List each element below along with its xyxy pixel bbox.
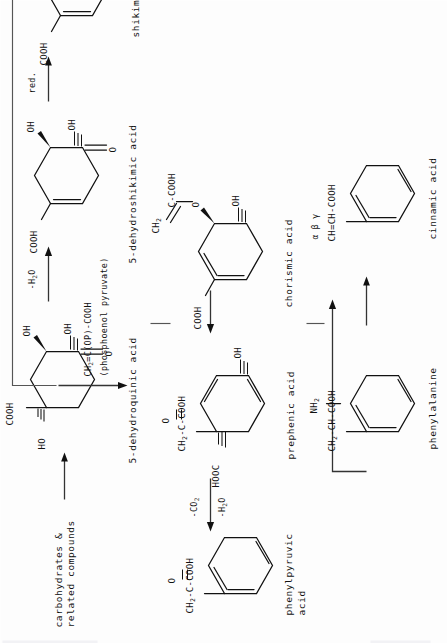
phenylpyruvic-label-o: O [166,577,176,583]
dehydroquinic-label-ho: HO [36,438,46,449]
reagent-pep-name: (phosphoenol pyruvate) [98,257,108,376]
structure-prephenic-acid: HOOC CH2-C-COOH O OH prephenic acid [172,331,302,471]
phenylpyruvic-caption: phenylpyruvic [282,533,293,615]
prephenic-hash-hooc [218,431,225,447]
structure-phenylpyruvic-acid: CH2-C-COOH O phenylpyruvic acid [176,497,306,627]
phenylpyruvic-caption-line2: acid [295,590,306,615]
dehydroshikimic-label-oh-right: OH [66,119,76,130]
cinnamic-caption: cinnamic acid [426,157,437,239]
structure-cinnamic-acid: CH=CH-COOH αβγ cinnamic acid [322,101,442,261]
chorismic-label-cooh: COOH [192,306,202,329]
prephenic-caption: prephenic acid [284,371,295,459]
prephenic-label-oh: OH [232,347,242,358]
cinnamic-greek-labels: αβγ [310,208,319,239]
tick-mark-phenylalanine-column [306,319,326,327]
dehydroquinic-hash-oh [70,335,77,350]
chorismic-skeleton [170,173,300,313]
dehydroshikimic-hash-oh [74,131,81,146]
structure-phenylalanine: CH2-CH-COOH NH2 phenylalanine [322,321,442,471]
chorismic-label-o-link: O [190,201,200,207]
phenylalanine-skeleton [322,321,442,471]
chorismic-label-oh: OH [230,195,240,206]
dehydroquinic-label-cooh: COOH [4,402,14,425]
chorismic-hash-oh [238,207,245,222]
pathway-canvas: carbohydrates & related compounds [0,0,447,643]
phenylalanine-caption: phenylalanine [426,367,437,449]
prephenic-carbonyl-double-bond [174,407,184,421]
dehydroshikimic-caption: 5-dehydroshikimic acid [126,124,137,263]
reagent-pep-formula: CH2=C(OP)-COOH [82,302,94,376]
chorismic-label-side-acid: C-COOH [166,173,176,207]
connector-shikimic-to-pep [6,0,66,391]
phenylpyruvic-label-side: CH2-C-COOH [184,557,197,613]
arrow-chorismic-to-prephenic [202,289,218,333]
arrow-phenylalanine-to-cinnamic [358,275,374,325]
chorismic-wedge-o [200,207,214,223]
structure-chorismic-acid: COOH O C-COOH CH2 OH chorismic acid [170,173,300,313]
arrow-carbohydrates-to-dehydroquinic [56,451,72,499]
arrow-shikimic-to-chorismic: CH2=C(OP)-COOH (phosphoenol pyruvate) [58,376,128,392]
chorismic-caption: chorismic acid [282,219,293,307]
prephenic-label-o: O [160,417,170,423]
prephenic-label-side: CH2-C-COOH [176,395,189,451]
diagram-page: carbohydrates & related compounds [0,0,447,643]
carbohydrates-label: carbohydrates & related compounds [52,507,76,627]
chorismic-label-ch2: CH2 [150,217,163,233]
prephenic-hash-oh [240,359,247,374]
tick-mark-chorismic-column [150,319,172,327]
dehydroquinic-caption: 5-dehydroquinic acid [126,337,137,463]
cinnamic-label-side: CH=CH-COOH [326,184,336,241]
dehydroshikimic-label-o: O [107,146,117,152]
shikimic-caption: shikimic acid [129,0,140,37]
phenylalanine-label-side: CH2-CH-COOH [326,390,339,451]
phenylpyruvic-carbonyl-double-bond [180,567,190,581]
node-carbohydrates: carbohydrates & related compounds [52,507,76,627]
dehydroquinic-hash-ho [38,408,44,421]
cinnamic-skeleton [322,101,442,261]
phenylalanine-label-nh2: NH2 [308,397,321,413]
